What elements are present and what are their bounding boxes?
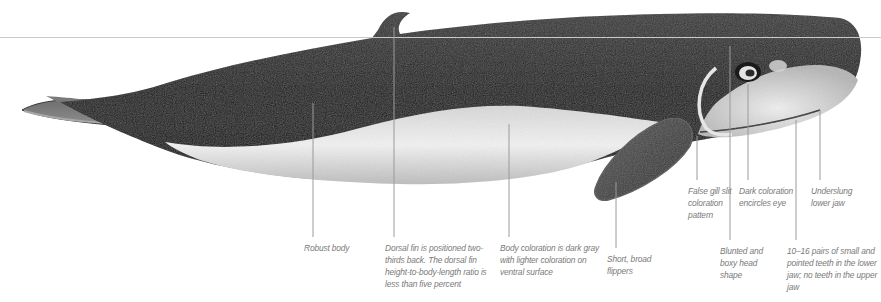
label-flippers: Short, broad flippers [607, 253, 665, 277]
whale-diagram: Robust body Dorsal fin is positioned two… [0, 0, 881, 302]
label-robust-body: Robust body [304, 242, 384, 254]
eye [735, 62, 761, 82]
label-body-coloration: Body coloration is dark gray with lighte… [500, 242, 600, 278]
label-lower-jaw: Underslung lower jaw [811, 185, 871, 209]
label-dorsal-fin: Dorsal fin is positioned two-thirds back… [385, 242, 487, 290]
label-head-shape: Blunted and boxy head shape [720, 245, 772, 281]
label-eye-coloration: Dark coloration encircles eye [739, 185, 803, 209]
label-false-gill-slit: False gill slit coloration pattern [688, 185, 740, 221]
label-teeth: 10–16 pairs of small and pointed teeth i… [787, 245, 881, 293]
